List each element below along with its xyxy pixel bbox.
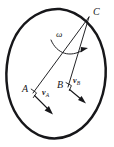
- velocity-vector-a: [35, 96, 54, 115]
- kinematics-figure: C A B ω vA vB: [0, 0, 114, 147]
- angular-velocity-arrowhead: [81, 47, 88, 52]
- velocity-vector-b-shaft: [70, 90, 82, 100]
- label-point-a: A: [22, 84, 28, 94]
- velocity-vector-b: [70, 90, 87, 104]
- label-point-b: B: [57, 80, 63, 90]
- label-velocity-b-subscript: B: [77, 80, 80, 86]
- label-angular-velocity-omega: ω: [56, 30, 62, 39]
- angular-velocity-arc: [51, 40, 88, 54]
- label-velocity-a-subscript: A: [46, 92, 49, 98]
- label-velocity-a: vA: [42, 89, 49, 97]
- right-angle-mark-b: [66, 83, 71, 91]
- label-point-c: C: [93, 7, 100, 17]
- label-velocity-b: vB: [73, 77, 80, 85]
- figure-canvas: [0, 0, 114, 147]
